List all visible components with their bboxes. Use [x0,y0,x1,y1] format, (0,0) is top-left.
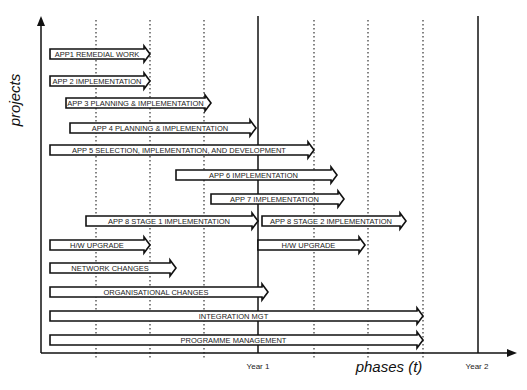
project-bar-label: H/W UPGRADE [282,241,336,250]
y-axis-arrow-icon [37,16,45,26]
project-bar: PROGRAMME MANAGEMENT [50,332,423,348]
project-bar: APP 8 STAGE 2 IMPLEMENTATION [262,213,406,229]
project-bar-label: APP 5 SELECTION, IMPLEMENTATION, AND DEV… [72,146,286,155]
project-bar: INTEGRATION MGT [50,308,423,324]
project-bar: APP1 REMEDIAL WORK [50,46,150,62]
year1-label: Year 1 [247,362,270,371]
project-bar-label: APP 8 STAGE 1 IMPLEMENTATION [108,217,230,226]
project-bar-label: H/W UPGRADE [70,241,124,250]
project-bar: APP 6 IMPLEMENTATION [176,167,337,183]
project-bar: NETWORK CHANGES [50,260,176,276]
project-bar-label: APP1 REMEDIAL WORK [55,50,140,59]
project-bar: APP 2 IMPLEMENTATION [50,73,150,89]
project-phases-diagram: APP1 REMEDIAL WORKAPP 2 IMPLEMENTATIONAP… [0,0,527,390]
project-bar: APP 7 IMPLEMENTATION [211,191,344,207]
project-bar-label: APP 2 IMPLEMENTATION [53,77,142,86]
project-bar: APP 5 SELECTION, IMPLEMENTATION, AND DEV… [50,142,314,158]
project-bar: APP 3 PLANNING & IMPLEMENTATION [66,95,211,111]
x-axis-label: phases (t) [355,358,423,375]
project-bar-label: APP 8 STAGE 2 IMPLEMENTATION [270,217,392,226]
project-bar: H/W UPGRADE [258,237,365,253]
project-bar: APP 8 STAGE 1 IMPLEMENTATION [86,213,258,229]
project-bar-label: APP 4 PLANNING & IMPLEMENTATION [92,124,228,133]
project-bar-label: APP 6 IMPLEMENTATION [209,171,298,180]
y-axis-label: projects [6,73,23,127]
x-axis-arrow-icon [507,349,517,357]
project-bar: H/W UPGRADE [50,237,150,253]
project-bar: ORGANISATIONAL CHANGES [50,284,268,300]
project-bar-label: APP 3 PLANNING & IMPLEMENTATION [67,99,203,108]
project-bar-label: ORGANISATIONAL CHANGES [103,288,208,297]
project-bar-label: NETWORK CHANGES [71,264,149,273]
year2-label: Year 2 [466,362,489,371]
project-bar: APP 4 PLANNING & IMPLEMENTATION [70,120,256,136]
project-bar-label: PROGRAMME MANAGEMENT [181,336,287,345]
project-bar-label: APP 7 IMPLEMENTATION [230,195,319,204]
project-bar-label: INTEGRATION MGT [199,312,269,321]
